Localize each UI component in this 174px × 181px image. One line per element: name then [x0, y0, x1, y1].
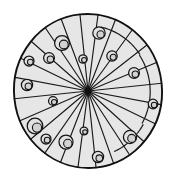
cell-marker — [93, 27, 105, 39]
cell-marker — [49, 97, 58, 106]
cell-marker — [24, 56, 34, 66]
cell-marker — [107, 51, 117, 61]
cell-marker — [41, 134, 51, 144]
figure-container — [0, 0, 174, 181]
center-hub — [85, 88, 91, 94]
cell-inner-circle — [27, 59, 33, 65]
cell-inner-circle — [96, 155, 103, 162]
cell-inner-circle — [32, 123, 41, 132]
cell-inner-circle — [47, 56, 53, 62]
cell-inner-circle — [25, 83, 32, 90]
cell-marker — [27, 118, 43, 134]
cell-inner-circle — [44, 137, 50, 143]
cell-inner-circle — [52, 100, 57, 105]
cell-inner-circle — [82, 58, 87, 63]
cell-marker — [92, 151, 103, 162]
cell-inner-circle — [132, 71, 138, 77]
cell-marker — [148, 99, 158, 109]
center-point — [85, 88, 91, 94]
cell-marker — [129, 68, 140, 79]
cell-inner-circle — [83, 130, 88, 135]
cell-marker — [79, 55, 87, 63]
cell-marker — [55, 36, 70, 51]
cell-marker — [80, 127, 88, 135]
cell-inner-circle — [64, 139, 72, 147]
cell-inner-circle — [97, 31, 104, 38]
cell-marker — [123, 130, 136, 143]
cell-inner-circle — [110, 54, 116, 60]
cell-marker — [44, 53, 55, 64]
cell-marker — [59, 135, 73, 149]
cell-marker — [21, 79, 32, 90]
cell-inner-circle — [128, 134, 136, 142]
circular-sector-diagram — [0, 0, 174, 181]
cell-inner-circle — [151, 102, 157, 108]
cell-inner-circle — [59, 40, 68, 49]
